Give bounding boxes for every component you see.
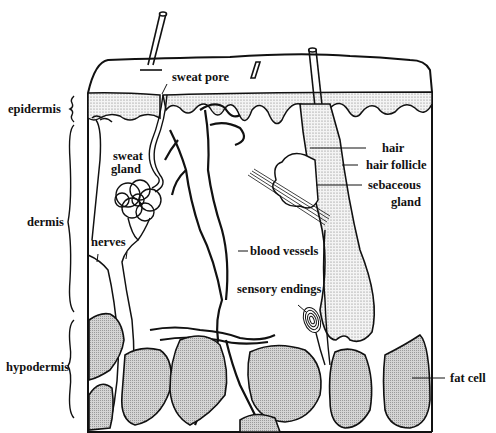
sweat-pore-hair	[140, 12, 260, 78]
fat-cells	[89, 314, 430, 432]
label-fat-cell: fat cell	[450, 372, 486, 385]
label-hypodermis: hypodermis	[6, 361, 69, 374]
label-sensory-endings: sensory endings	[237, 283, 321, 296]
label-hair-follicle: hair follicle	[366, 159, 427, 172]
label-sebaceous-line2: gland	[391, 196, 421, 209]
skin-diagram	[0, 0, 496, 433]
label-dermis: dermis	[27, 216, 64, 229]
label-nerves: nerves	[91, 236, 126, 249]
label-blood-vessels: blood vessels	[250, 245, 318, 258]
label-epidermis: epidermis	[8, 103, 61, 116]
label-sweat-pore: sweat pore	[172, 71, 229, 84]
label-sebaceous-line1: sebaceous	[368, 179, 421, 192]
hair-follicle	[300, 104, 374, 341]
label-sweat-gland-line1: sweat	[113, 150, 143, 163]
label-hair: hair	[382, 142, 404, 155]
sebaceous-gland	[273, 154, 318, 208]
label-sweat-gland-line2: gland	[111, 163, 141, 176]
epidermis-layer	[88, 92, 432, 124]
leader-lines	[97, 84, 445, 378]
